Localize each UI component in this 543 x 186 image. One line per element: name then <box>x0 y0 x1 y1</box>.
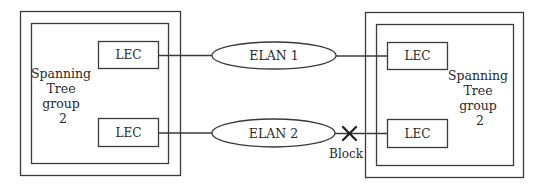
diagram-canvas: LEC LEC Spanning Tree group 2 LEC LEC Sp… <box>0 0 543 186</box>
elan-1: ELAN 1 <box>212 42 336 69</box>
right-group-label-line: Spanning <box>448 68 508 83</box>
right-group-label-line: 2 <box>476 113 484 128</box>
elan-2: ELAN 2 <box>212 119 335 147</box>
left-group-label-line: Tree <box>46 81 75 96</box>
elan-2-label: ELAN 2 <box>249 126 298 141</box>
right-outer-box <box>366 13 524 178</box>
right-lec-bottom-label: LEC <box>405 127 431 141</box>
left-lec-bottom-label: LEC <box>116 126 142 140</box>
left-group-label-line: Spanning <box>31 66 91 81</box>
right-lec-top-label: LEC <box>405 49 431 63</box>
left-group-label-line: group <box>42 96 80 111</box>
block-label: Block <box>329 147 364 161</box>
elan-1-label: ELAN 1 <box>249 48 298 63</box>
left-group-label-line: 2 <box>59 111 67 126</box>
right-group-label-line: group <box>459 98 497 113</box>
left-lec-top-label: LEC <box>116 48 142 62</box>
left-outer-box <box>21 12 181 176</box>
right-spanning-tree-group: LEC LEC Spanning Tree group 2 <box>366 13 524 178</box>
left-group-label: Spanning Tree group 2 <box>31 66 95 126</box>
spanning-tree-diagram: LEC LEC Spanning Tree group 2 LEC LEC Sp… <box>0 0 543 186</box>
left-spanning-tree-group: LEC LEC Spanning Tree group 2 <box>21 12 181 176</box>
right-group-label-line: Tree <box>463 83 492 98</box>
right-group-label: Spanning Tree group 2 <box>448 68 512 128</box>
